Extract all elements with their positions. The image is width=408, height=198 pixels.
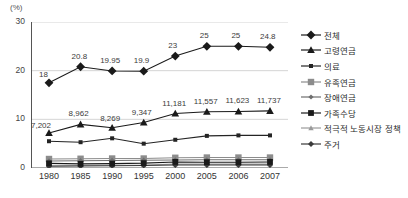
data-label: 11,557 bbox=[194, 97, 218, 106]
legend-item-2[interactable]: 의료 bbox=[300, 58, 406, 74]
data-point-marker bbox=[202, 42, 211, 51]
data-label: 8,269 bbox=[100, 114, 120, 123]
legend-marker-icon bbox=[300, 60, 322, 72]
data-point-marker bbox=[171, 52, 180, 61]
data-label: 8,962 bbox=[69, 109, 89, 118]
data-point-marker bbox=[266, 43, 275, 52]
data-label: 25 bbox=[200, 31, 209, 40]
data-label: 9,347 bbox=[132, 108, 152, 117]
legend-item-5[interactable]: 가족수당 bbox=[300, 105, 406, 121]
legend-marker-icon bbox=[300, 107, 322, 119]
data-point-marker bbox=[78, 161, 84, 167]
legend-marker-icon bbox=[300, 44, 322, 56]
data-label: 7,202 bbox=[31, 121, 51, 130]
data-point-marker bbox=[205, 134, 209, 138]
data-label: 11,623 bbox=[225, 96, 249, 105]
series-2 bbox=[47, 133, 272, 145]
legend-label: 적극적 노동시장 정책 bbox=[324, 122, 401, 134]
data-label: 19.9 bbox=[134, 56, 150, 65]
data-label: 25 bbox=[231, 31, 240, 40]
data-point-marker bbox=[46, 160, 52, 166]
data-point-marker bbox=[141, 160, 147, 166]
data-point-marker bbox=[308, 78, 314, 84]
data-point-marker bbox=[234, 42, 243, 51]
data-label: 20.8 bbox=[72, 52, 88, 61]
y-axis-unit-label: (%) bbox=[10, 3, 22, 12]
data-point-marker bbox=[139, 67, 148, 76]
chart-container: (%) 0102030 1980198519901995200020052006… bbox=[0, 0, 408, 198]
legend-marker-icon bbox=[300, 91, 322, 103]
data-point-marker bbox=[267, 159, 273, 165]
legend-label: 장애연금 bbox=[324, 91, 356, 103]
data-point-marker bbox=[268, 133, 272, 137]
series-0 bbox=[45, 42, 275, 87]
legend-label: 전체 bbox=[324, 29, 340, 41]
legend-item-7[interactable]: 주거 bbox=[300, 136, 406, 152]
data-point-marker bbox=[47, 139, 51, 143]
data-point-marker bbox=[109, 161, 115, 167]
data-point-marker bbox=[308, 141, 314, 147]
y-tick-label: 20 bbox=[5, 66, 25, 75]
legend-item-0[interactable]: 전체 bbox=[300, 27, 406, 43]
legend-marker-icon bbox=[300, 122, 322, 134]
data-label: 11,181 bbox=[162, 99, 186, 108]
plot-area bbox=[31, 22, 288, 168]
legend-marker-icon bbox=[300, 76, 322, 88]
chart-plot-svg bbox=[31, 22, 288, 168]
data-point-marker bbox=[308, 110, 314, 116]
data-point-marker bbox=[309, 64, 313, 68]
x-tick-label: 2007 bbox=[252, 171, 288, 181]
data-label: 23 bbox=[168, 41, 177, 50]
legend-item-3[interactable]: 유족연금 bbox=[300, 74, 406, 90]
chart-legend: 전체고령연금의료유족연금장애연금가족수당적극적 노동시장 정책주거 bbox=[300, 27, 406, 152]
legend-marker-icon bbox=[300, 29, 322, 41]
legend-label: 유족연금 bbox=[324, 76, 356, 88]
data-point-marker bbox=[173, 138, 177, 142]
legend-item-4[interactable]: 장애연금 bbox=[300, 89, 406, 105]
data-label: 24.8 bbox=[260, 32, 276, 41]
data-point-marker bbox=[236, 133, 240, 137]
legend-label: 의료 bbox=[324, 60, 340, 72]
data-point-marker bbox=[236, 159, 242, 165]
data-point-marker bbox=[45, 78, 54, 87]
data-point-marker bbox=[308, 95, 313, 100]
legend-label: 주거 bbox=[324, 138, 340, 150]
data-point-marker bbox=[204, 159, 210, 165]
data-point-marker bbox=[77, 121, 85, 128]
data-label: 18 bbox=[39, 70, 48, 79]
y-tick-label: 0 bbox=[5, 163, 25, 172]
y-tick-label: 30 bbox=[5, 17, 25, 26]
legend-label: 가족수당 bbox=[324, 107, 356, 119]
data-point-marker bbox=[172, 159, 178, 165]
data-point-marker bbox=[108, 67, 117, 76]
legend-item-1[interactable]: 고령연금 bbox=[300, 43, 406, 59]
data-point-marker bbox=[307, 30, 316, 39]
legend-marker-icon bbox=[300, 138, 322, 150]
data-point-marker bbox=[79, 140, 83, 144]
legend-label: 고령연금 bbox=[324, 44, 356, 56]
data-point-marker bbox=[142, 142, 146, 146]
data-label: 11,737 bbox=[257, 96, 281, 105]
y-tick-label: 10 bbox=[5, 114, 25, 123]
legend-item-6[interactable]: 적극적 노동시장 정책 bbox=[300, 121, 406, 137]
data-label: 19.95 bbox=[100, 56, 120, 65]
data-point-marker bbox=[76, 62, 85, 71]
data-point-marker bbox=[110, 136, 114, 140]
